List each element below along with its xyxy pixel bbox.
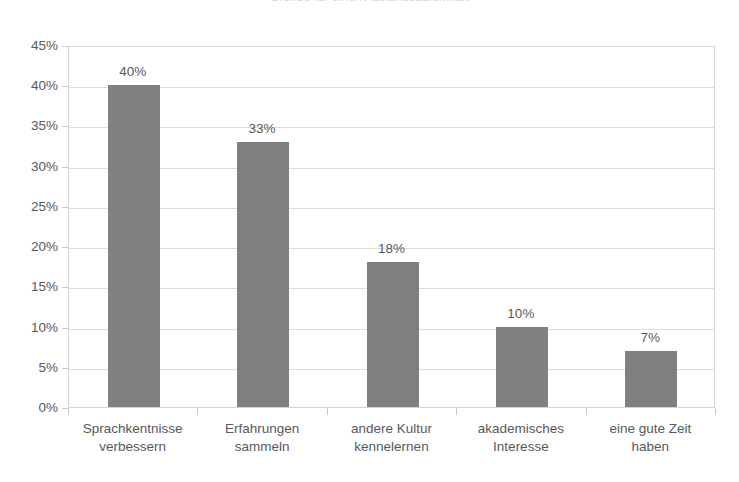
x-axis-category-line: andere Kultur xyxy=(351,421,432,436)
y-axis-tick-label: 20% xyxy=(12,240,58,254)
bar-chart: Gründe für einen Auslandsaufenthalt 40%3… xyxy=(0,0,739,482)
y-axis-tick xyxy=(62,368,68,369)
x-axis-category-label: andere Kulturkennelernen xyxy=(327,420,456,456)
bar[interactable] xyxy=(496,327,548,407)
gridline xyxy=(69,127,714,128)
x-axis-tick xyxy=(197,408,198,415)
x-axis-category-line: akademisches xyxy=(478,421,564,436)
x-axis-category-label: akademischesInteresse xyxy=(456,420,585,456)
x-axis-category-line: eine gute Zeit xyxy=(609,421,691,436)
y-axis-tick-label: 30% xyxy=(12,160,58,174)
bar-value-label: 40% xyxy=(68,65,197,79)
y-axis-tick-label: 35% xyxy=(12,119,58,133)
x-axis-category-line: sammeln xyxy=(197,438,326,456)
x-axis-category-line: Erfahrungen xyxy=(225,421,299,436)
bar-value-label: 7% xyxy=(586,331,715,345)
bar[interactable] xyxy=(108,85,160,407)
y-axis-tick xyxy=(62,86,68,87)
y-axis-tick-label: 40% xyxy=(12,79,58,93)
x-axis-category-line: kennelernen xyxy=(327,438,456,456)
y-axis-tick xyxy=(62,287,68,288)
y-axis-tick xyxy=(62,167,68,168)
x-axis-tick xyxy=(586,408,587,415)
x-axis-category-label: Erfahrungensammeln xyxy=(197,420,326,456)
plot-area xyxy=(68,46,715,408)
bar-value-label: 10% xyxy=(456,307,585,321)
x-axis-tick xyxy=(456,408,457,415)
bar-value-label: 33% xyxy=(197,122,326,136)
x-axis-category-line: Interesse xyxy=(456,438,585,456)
x-axis-tick xyxy=(715,408,716,415)
y-axis-tick xyxy=(62,126,68,127)
x-axis-tick xyxy=(68,408,69,415)
chart-title: Gründe für einen Auslandsaufenthalt xyxy=(0,0,739,4)
x-axis-category-label: eine gute Zeithaben xyxy=(586,420,715,456)
gridline xyxy=(69,208,714,209)
y-axis-tick-label: 15% xyxy=(12,280,58,294)
y-axis-tick-label: 10% xyxy=(12,321,58,335)
y-axis-tick xyxy=(62,247,68,248)
x-axis-category-line: verbessern xyxy=(68,438,197,456)
gridline xyxy=(69,168,714,169)
bar-value-label: 18% xyxy=(327,242,456,256)
x-axis-category-line: Sprachkentnisse xyxy=(83,421,183,436)
y-axis-tick-label: 45% xyxy=(12,39,58,53)
y-axis-tick xyxy=(62,328,68,329)
y-axis-tick-label: 5% xyxy=(12,361,58,375)
bar[interactable] xyxy=(237,142,289,407)
x-axis-category-line: haben xyxy=(586,438,715,456)
y-axis-tick-label: 25% xyxy=(12,200,58,214)
bar[interactable] xyxy=(625,351,677,407)
x-axis-tick xyxy=(327,408,328,415)
y-axis-tick-label: 0% xyxy=(12,401,58,415)
y-axis-tick xyxy=(62,207,68,208)
y-axis-tick xyxy=(62,46,68,47)
x-axis-category-label: Sprachkentnisseverbessern xyxy=(68,420,197,456)
gridline xyxy=(69,87,714,88)
bar[interactable] xyxy=(367,262,419,407)
